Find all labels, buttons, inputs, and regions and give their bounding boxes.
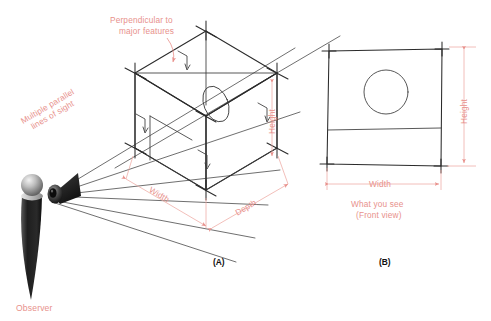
- front-view-caption-line1: What you see: [351, 199, 404, 209]
- label-observer: Observer: [16, 303, 53, 313]
- label-lines-of-sight: Multiple parallel lines of sight: [19, 86, 81, 134]
- lines-of-sight-group: [50, 36, 340, 262]
- svg-text:Width: Width: [369, 179, 391, 189]
- observer-figure: [21, 173, 81, 300]
- front-view-caption-line2: (Front view): [356, 210, 402, 220]
- panel-label-a: (A): [213, 257, 225, 267]
- dimension-height-a: Height: [267, 83, 277, 156]
- svg-text:Depth: Depth: [233, 197, 258, 217]
- dimension-depth-a: Depth: [212, 156, 288, 228]
- dimension-height-b: Height: [447, 47, 476, 166]
- dimension-width-b: Width: [327, 168, 441, 190]
- projection-diagram: Perpendicular to major features Multiple…: [0, 0, 491, 321]
- label-perpendicular-line2: major features: [119, 26, 174, 36]
- isometric-box: [125, 21, 288, 200]
- svg-text:Height: Height: [267, 109, 277, 134]
- label-perpendicular-line1: Perpendicular to: [110, 15, 173, 25]
- panel-label-b: (B): [379, 257, 391, 267]
- perpendicular-leader-line: [167, 38, 174, 62]
- svg-text:Height: Height: [459, 99, 469, 124]
- svg-text:Width: Width: [147, 185, 171, 205]
- front-view-square: [320, 42, 449, 173]
